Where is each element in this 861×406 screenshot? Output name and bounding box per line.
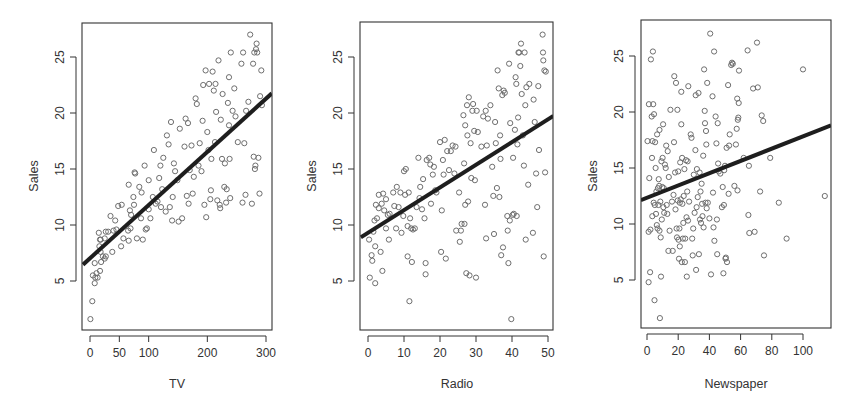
- data-point: [240, 200, 245, 205]
- data-point: [648, 270, 653, 275]
- data-point: [660, 155, 665, 160]
- data-point: [201, 82, 206, 87]
- data-point: [203, 68, 208, 73]
- data-point: [170, 194, 175, 199]
- data-point: [497, 194, 502, 199]
- data-point: [242, 141, 247, 146]
- data-point: [140, 237, 145, 242]
- data-point: [673, 170, 678, 175]
- data-point: [693, 148, 698, 153]
- data-point: [373, 281, 378, 286]
- data-point: [248, 32, 253, 37]
- data-point: [523, 103, 528, 108]
- data-point: [482, 202, 487, 207]
- data-point: [658, 235, 663, 240]
- data-point: [524, 85, 529, 90]
- data-point: [200, 118, 205, 123]
- data-point: [526, 182, 531, 187]
- data-point: [367, 275, 372, 280]
- data-point: [419, 207, 424, 212]
- data-point: [253, 163, 258, 168]
- data-point: [151, 147, 156, 152]
- data-point: [531, 97, 536, 102]
- data-point: [443, 256, 448, 261]
- data-point: [727, 132, 732, 137]
- data-point: [495, 68, 500, 73]
- data-point: [189, 143, 194, 148]
- data-point: [543, 170, 548, 175]
- data-point: [170, 218, 175, 223]
- data-point: [518, 63, 523, 68]
- data-point: [676, 256, 681, 261]
- data-point: [647, 176, 652, 181]
- x-axis-label: TV: [169, 377, 186, 391]
- data-point: [163, 209, 168, 214]
- data-point: [493, 119, 498, 124]
- data-point: [648, 57, 653, 62]
- data-point: [471, 101, 476, 106]
- data-point: [134, 236, 139, 241]
- data-point: [142, 163, 147, 168]
- panel-radio: 01020304050510152025RadioSales: [305, 22, 555, 391]
- data-point: [500, 245, 505, 250]
- data-point: [157, 175, 162, 180]
- data-point: [386, 237, 391, 242]
- data-point: [463, 123, 468, 128]
- data-points: [645, 31, 828, 321]
- data-point: [167, 205, 172, 210]
- data-point: [428, 201, 433, 206]
- data-point: [754, 40, 759, 45]
- data-point: [493, 141, 498, 146]
- data-point: [139, 190, 144, 195]
- data-point: [430, 172, 435, 177]
- data-point: [691, 226, 696, 231]
- data-point: [148, 216, 153, 221]
- y-tick-label: 10: [331, 218, 345, 232]
- y-tick-label: 15: [612, 161, 626, 175]
- data-point: [121, 236, 126, 241]
- data-point: [673, 80, 678, 85]
- data-point: [194, 101, 199, 106]
- data-point: [652, 298, 657, 303]
- data-point: [137, 184, 142, 189]
- data-point: [439, 208, 444, 213]
- data-point: [720, 184, 725, 189]
- y-axis: 510152025: [53, 50, 76, 284]
- y-tick-label: 15: [53, 162, 67, 176]
- data-point: [681, 193, 686, 198]
- data-point: [536, 84, 541, 89]
- y-tick-label: 10: [53, 218, 67, 232]
- data-point: [543, 69, 548, 74]
- data-point: [146, 178, 151, 183]
- data-point: [677, 244, 682, 249]
- data-point: [182, 144, 187, 149]
- data-point: [479, 144, 484, 149]
- data-point: [669, 199, 674, 204]
- data-point: [369, 253, 374, 258]
- data-point: [211, 88, 216, 93]
- data-point: [726, 191, 731, 196]
- data-point: [490, 164, 495, 169]
- data-point: [657, 127, 662, 132]
- data-point: [213, 81, 218, 86]
- data-point: [507, 218, 512, 223]
- y-tick-label: 25: [331, 50, 345, 64]
- data-point: [505, 228, 510, 233]
- data-point: [540, 32, 545, 37]
- data-point: [461, 113, 466, 118]
- data-point: [468, 141, 473, 146]
- data-point: [408, 216, 413, 221]
- y-tick-label: 10: [612, 217, 626, 231]
- data-point: [227, 156, 232, 161]
- data-point: [689, 135, 694, 140]
- data-point: [645, 139, 650, 144]
- data-point: [208, 188, 213, 193]
- data-point: [711, 225, 716, 230]
- regression-line: [83, 93, 272, 264]
- data-point: [207, 81, 212, 86]
- plot-frame: [82, 23, 272, 330]
- data-point: [494, 185, 499, 190]
- data-point: [463, 202, 468, 207]
- data-point: [752, 229, 757, 234]
- data-point: [457, 239, 462, 244]
